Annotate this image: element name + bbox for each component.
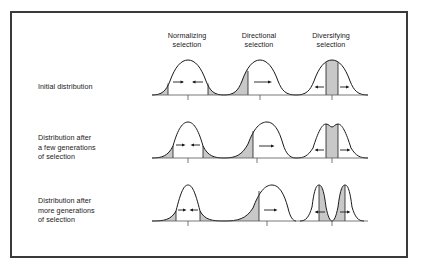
selection-arrow-right bbox=[191, 144, 201, 147]
distribution-curve bbox=[224, 60, 296, 95]
selection-arrow-right bbox=[190, 209, 199, 212]
row-label-more-generations-line3: of selection bbox=[38, 215, 134, 225]
panel-few-diversifying bbox=[296, 118, 368, 164]
selection-arrow-right bbox=[264, 209, 278, 212]
figure-root: Normalizing selection Directional select… bbox=[0, 0, 422, 272]
row-label-more-generations-line2: more generations bbox=[38, 206, 134, 216]
panel-few-normalizing bbox=[152, 118, 224, 164]
shaded-tails bbox=[152, 118, 224, 164]
row-label-few-generations-line3: of selection bbox=[38, 152, 134, 162]
distribution-curve bbox=[224, 122, 296, 158]
column-header-normalizing: Normalizing selection bbox=[152, 31, 222, 49]
column-header-diversifying: Diversifying selection bbox=[296, 31, 366, 49]
column-header-diversifying-line2: selection bbox=[296, 40, 366, 49]
column-header-directional-line1: Directional bbox=[224, 31, 294, 40]
row-label-initial: Initial distribution bbox=[38, 82, 134, 92]
shaded-inner-regions bbox=[319, 181, 345, 227]
column-header-normalizing-line1: Normalizing bbox=[152, 31, 222, 40]
row-label-more-generations: Distribution after more generations of s… bbox=[38, 196, 134, 225]
row-label-more-generations-line1: Distribution after bbox=[38, 196, 134, 206]
selection-arrow-left bbox=[315, 86, 325, 89]
shaded-region bbox=[224, 181, 259, 227]
column-header-normalizing-line2: selection bbox=[152, 40, 222, 49]
selection-arrow-right bbox=[254, 81, 272, 84]
panel-more-directional bbox=[224, 181, 296, 227]
selection-arrow-left bbox=[176, 144, 186, 147]
row-label-few-generations-line2: a few generations bbox=[38, 143, 134, 153]
panel-initial-directional bbox=[224, 55, 296, 101]
selection-arrow-left bbox=[178, 209, 187, 212]
selection-arrow-right bbox=[340, 149, 351, 152]
selection-arrow-right bbox=[192, 81, 203, 84]
selection-arrow-right bbox=[340, 86, 350, 89]
shaded-region bbox=[224, 55, 248, 101]
panel-more-normalizing bbox=[152, 181, 224, 227]
distribution-curve bbox=[224, 185, 296, 221]
panel-initial-diversifying bbox=[296, 55, 368, 101]
shaded-tails bbox=[152, 55, 224, 101]
row-label-initial-line1: Initial distribution bbox=[38, 82, 134, 92]
selection-arrow-left bbox=[173, 81, 184, 84]
distribution-curve bbox=[152, 60, 224, 95]
distribution-curve bbox=[300, 185, 364, 221]
selection-arrow-left bbox=[315, 149, 325, 152]
column-header-directional: Directional selection bbox=[224, 31, 294, 49]
panel-few-directional bbox=[224, 118, 296, 164]
column-header-directional-line2: selection bbox=[224, 40, 294, 49]
shaded-center-region bbox=[326, 55, 338, 101]
selection-arrow-right bbox=[259, 145, 275, 148]
row-label-few-generations: Distribution after a few generations of … bbox=[38, 133, 134, 162]
column-header-diversifying-line1: Diversifying bbox=[296, 31, 366, 40]
distribution-curve bbox=[152, 185, 224, 221]
panel-more-diversifying bbox=[296, 181, 368, 227]
row-label-few-generations-line1: Distribution after bbox=[38, 133, 134, 143]
distribution-curve bbox=[152, 122, 224, 158]
panel-initial-normalizing bbox=[152, 55, 224, 101]
